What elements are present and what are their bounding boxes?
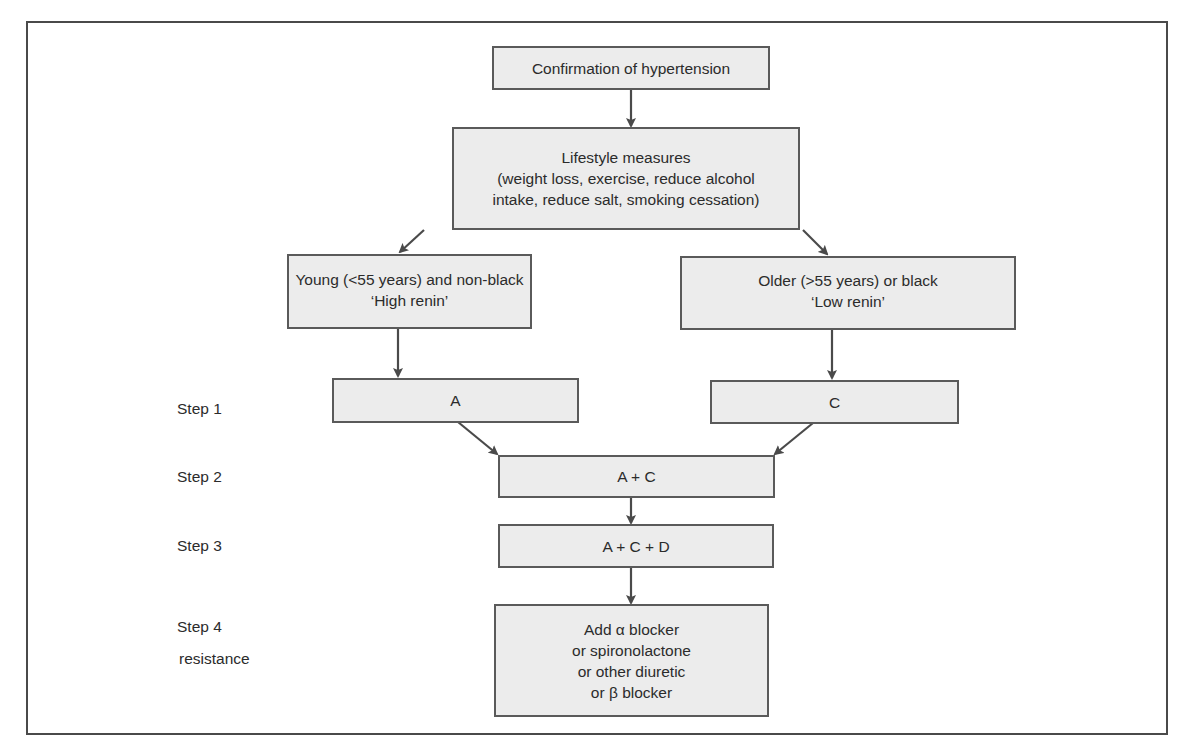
node-step4-line: or β blocker	[591, 682, 672, 703]
node-lifestyle-line: Lifestyle measures	[561, 147, 690, 168]
step-label-1: Step 1	[177, 400, 222, 418]
node-step1-a-label: A	[450, 390, 460, 411]
node-step4-line: or spironolactone	[572, 640, 691, 661]
node-step3-label: A + C + D	[602, 536, 669, 557]
node-step2-a-plus-c: A + C	[498, 455, 775, 498]
node-step2-label: A + C	[617, 466, 655, 487]
step-label-2: Step 2	[177, 468, 222, 486]
node-step4-line: or other diuretic	[578, 661, 686, 682]
node-confirmation-line: Confirmation of hypertension	[532, 58, 730, 79]
node-young-high-renin: Young (<55 years) and non-black ‘High re…	[287, 254, 532, 329]
node-older-low-renin: Older (>55 years) or black ‘Low renin’	[680, 256, 1016, 330]
arrow-lifestyle-to-young	[400, 230, 424, 252]
node-step1-c: C	[710, 380, 959, 424]
node-older-line: Older (>55 years) or black	[758, 270, 938, 291]
node-lifestyle: Lifestyle measures (weight loss, exercis…	[452, 127, 800, 230]
arrow-a-to-step2	[458, 422, 497, 454]
node-young-line: ‘High renin’	[371, 290, 449, 311]
node-step1-a: A	[332, 378, 579, 423]
node-step1-c-label: C	[829, 392, 840, 413]
arrow-c-to-step2	[775, 423, 813, 454]
step-label-4: Step 4	[177, 618, 222, 636]
node-young-line: Young (<55 years) and non-black	[295, 269, 523, 290]
node-step3-a-plus-c-plus-d: A + C + D	[498, 524, 774, 568]
node-older-line: ‘Low renin’	[811, 291, 885, 312]
step-label-3: Step 3	[177, 537, 222, 555]
node-confirmation: Confirmation of hypertension	[492, 46, 770, 90]
node-lifestyle-line: intake, reduce salt, smoking cessation)	[492, 189, 759, 210]
arrow-lifestyle-to-older	[803, 230, 827, 254]
node-lifestyle-line: (weight loss, exercise, reduce alcohol	[497, 168, 755, 189]
step-label-4-resistance: resistance	[179, 650, 250, 668]
node-step4-line: Add α blocker	[584, 619, 679, 640]
node-step4-add-therapy: Add α blocker or spironolactone or other…	[494, 604, 769, 717]
